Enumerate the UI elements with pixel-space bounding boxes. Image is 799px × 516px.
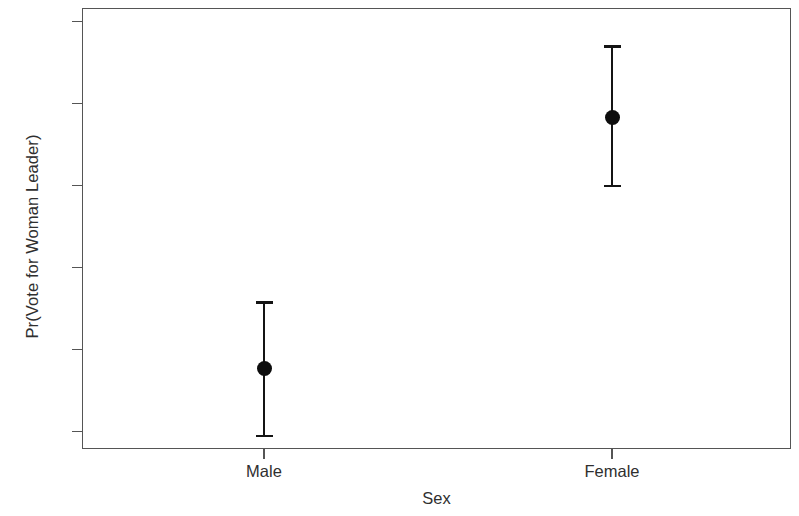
- x-tick-label: Female: [542, 462, 682, 481]
- y-tick-mark: [72, 103, 83, 104]
- y-tick-mark: [72, 349, 83, 350]
- x-tick-label: Male: [194, 462, 334, 481]
- data-point-male: [257, 361, 272, 376]
- data-point-female: [605, 110, 620, 125]
- errorbar-cap-lower: [256, 435, 273, 438]
- y-tick-mark: [72, 185, 83, 186]
- plot-area-frame: [82, 8, 791, 449]
- errorbar-cap-upper: [256, 301, 273, 304]
- y-tick-mark: [72, 21, 83, 22]
- y-tick-mark: [72, 267, 83, 268]
- chart-figure: Pr(Vote for Woman Leader) Sex 0.70.60.50…: [0, 0, 799, 516]
- errorbar-cap-lower: [604, 185, 621, 188]
- x-axis-title: Sex: [0, 489, 799, 508]
- y-axis-title: Pr(Vote for Woman Leader): [23, 97, 42, 377]
- errorbar-cap-upper: [604, 45, 621, 48]
- y-tick-mark: [72, 431, 83, 432]
- x-tick-mark: [263, 449, 264, 459]
- x-tick-mark: [611, 449, 612, 459]
